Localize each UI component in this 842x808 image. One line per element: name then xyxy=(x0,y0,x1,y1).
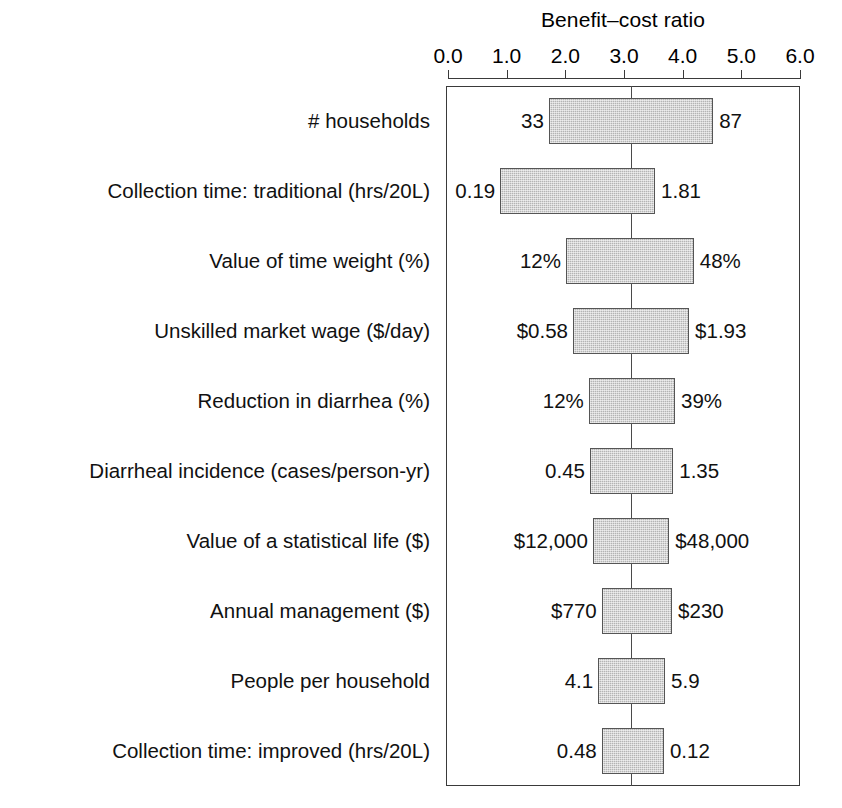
category-label: # households xyxy=(308,109,430,133)
tornado-chart-figure: Benefit–cost ratio 0.01.02.03.04.05.06.0… xyxy=(0,0,842,808)
bar-low-value-label: $0.58 xyxy=(517,319,568,343)
tornado-bar xyxy=(573,308,689,354)
bar-low-value-label: 0.45 xyxy=(545,459,585,483)
category-label: Unskilled market wage ($/day) xyxy=(154,319,430,343)
x-axis-line xyxy=(448,78,800,79)
bar-low-value-label: 0.19 xyxy=(455,179,495,203)
x-tick-label-6.0: 6.0 xyxy=(785,44,814,68)
tornado-bar xyxy=(500,168,655,214)
category-label: Reduction in diarrhea (%) xyxy=(198,389,430,413)
x-tick-mark-6.0 xyxy=(800,70,801,79)
x-tick-label-0.0: 0.0 xyxy=(433,44,462,68)
tornado-bar xyxy=(590,448,673,494)
bar-high-value-label: 1.35 xyxy=(679,459,719,483)
category-label: Collection time: traditional (hrs/20L) xyxy=(108,179,430,203)
category-label: Collection time: improved (hrs/20L) xyxy=(112,739,430,763)
bar-low-value-label: 4.1 xyxy=(565,669,594,693)
bar-high-value-label: $1.93 xyxy=(695,319,746,343)
tornado-bar xyxy=(602,588,672,634)
tornado-bar xyxy=(549,98,713,144)
bar-low-value-label: 12% xyxy=(543,389,584,413)
category-label: Value of time weight (%) xyxy=(209,249,430,273)
bar-high-value-label: $48,000 xyxy=(675,529,749,553)
bar-high-value-label: 0.12 xyxy=(670,739,710,763)
x-tick-label-4.0: 4.0 xyxy=(668,44,697,68)
x-tick-label-5.0: 5.0 xyxy=(727,44,756,68)
bar-high-value-label: 1.81 xyxy=(661,179,701,203)
bar-high-value-label: 39% xyxy=(681,389,722,413)
category-label: Diarrheal incidence (cases/person-yr) xyxy=(89,459,430,483)
bar-low-value-label: 33 xyxy=(521,109,544,133)
bar-low-value-label: $770 xyxy=(551,599,597,623)
bar-high-value-label: 5.9 xyxy=(671,669,700,693)
category-label: Value of a statistical life ($) xyxy=(187,529,430,553)
x-tick-label-3.0: 3.0 xyxy=(609,44,638,68)
tornado-bar xyxy=(566,238,694,284)
tornado-bar xyxy=(602,728,664,774)
category-label: Annual management ($) xyxy=(210,599,430,623)
x-axis-title: Benefit–cost ratio xyxy=(446,8,800,32)
tornado-bar xyxy=(593,518,669,564)
tornado-bar xyxy=(598,658,665,704)
tornado-bar xyxy=(589,378,675,424)
bar-low-value-label: 12% xyxy=(520,249,561,273)
bar-low-value-label: 0.48 xyxy=(557,739,597,763)
x-tick-label-1.0: 1.0 xyxy=(492,44,521,68)
bar-high-value-label: 87 xyxy=(719,109,742,133)
x-tick-label-2.0: 2.0 xyxy=(551,44,580,68)
bar-high-value-label: 48% xyxy=(700,249,741,273)
category-label: People per household xyxy=(231,669,430,693)
bar-low-value-label: $12,000 xyxy=(514,529,588,553)
bar-high-value-label: $230 xyxy=(678,599,724,623)
